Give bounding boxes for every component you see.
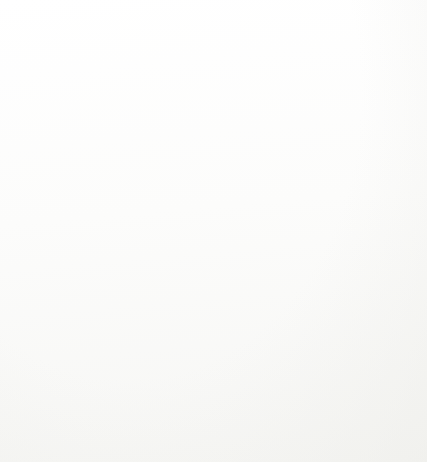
x-tick-label: 3 [254, 415, 258, 422]
contour-label: 2 [161, 388, 167, 394]
contour-label: 2 [249, 390, 255, 396]
contour-label: 0.5 [154, 202, 166, 208]
y-axis-title-wrap: Multiples of ariori standard deviation o… [0, 0, 22, 420]
plot-frame [40, 13, 400, 410]
x-tick-label: 1.5 [143, 415, 153, 422]
axis-ticks [40, 13, 400, 410]
contour-label: 1 [91, 310, 97, 316]
contour-label: 1 [82, 113, 88, 119]
contour-lines [58, 13, 400, 394]
contour-label: 2 [80, 383, 86, 389]
contour-label: 1 [85, 209, 91, 215]
contour-label: 1 [129, 357, 135, 363]
contour-label: 2 [57, 309, 63, 315]
x-tick-label: 4.5 [359, 415, 369, 422]
y-axis-title: Multiples of ariori standard deviation o… [10, 31, 21, 391]
x-tick-label: 5 [398, 415, 402, 422]
contour-label: 1 [80, 20, 86, 26]
contour-label: 0.5 [206, 282, 218, 288]
contour-label: 0.5 [266, 307, 278, 313]
contour-label: 1 [211, 368, 217, 374]
x-tick-label: 3.5 [287, 415, 297, 422]
contour-label: 2 [345, 390, 351, 396]
contour-label: 2 [57, 207, 63, 213]
contour-label: 2 [56, 112, 62, 118]
contour-label: 0.25 [333, 178, 348, 184]
contour-label: 0.5 [138, 116, 150, 122]
contour-label: 0.5 [358, 321, 370, 327]
contour-plot-figure: 0.511.522.533.544.55 0.511.522.533.544.5… [0, 0, 427, 462]
contour-label: 0.5 [130, 20, 142, 26]
contour-label: 0.25 [253, 20, 268, 26]
plot-canvas [0, 0, 427, 462]
contour-label: 1 [313, 370, 319, 376]
contour-label: 2 [55, 20, 61, 26]
x-tick-label: 0.5 [71, 415, 81, 422]
x-tick-label: 4 [326, 415, 330, 422]
x-tick-label: 2 [182, 415, 186, 422]
x-tick-label: 2.5 [215, 415, 225, 422]
contour-label: 0.25 [280, 112, 295, 118]
x-tick-label: 1 [110, 415, 114, 422]
x-axis-title: Multiples of apriori standard deviation … [0, 436, 427, 447]
